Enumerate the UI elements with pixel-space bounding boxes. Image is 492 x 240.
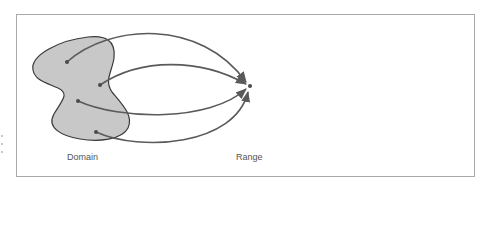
domain-point-2 — [98, 83, 102, 87]
domain-point-1 — [65, 60, 69, 64]
domain-point-3 — [76, 99, 80, 103]
domain-label: Domain — [67, 152, 98, 162]
domain-point-4 — [94, 130, 98, 134]
range-label: Range — [236, 152, 263, 162]
mapping-arrow-2 — [100, 65, 246, 85]
range-point — [248, 84, 252, 88]
